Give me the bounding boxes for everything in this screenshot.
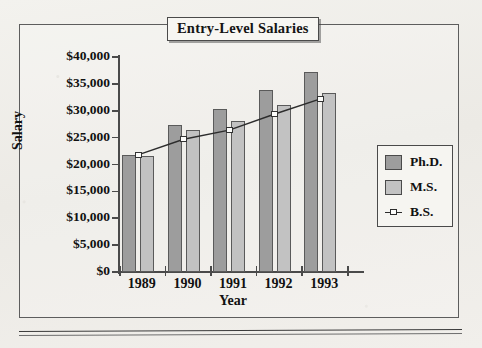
phd-swatch-icon: [385, 155, 402, 170]
bs-data-point: [317, 96, 324, 102]
x-axis-tick-label: 1989: [116, 276, 168, 292]
bs-trend-line: [119, 57, 347, 272]
y-axis-labels: $0$5,000$10,000$15,000$20,000$25,000$30,…: [0, 0, 110, 348]
y-axis-tick-label: $15,000: [66, 182, 110, 198]
legend-item-ms: M.S.: [385, 177, 437, 197]
y-axis-tick-label: $0: [97, 263, 111, 279]
y-axis-tick-label: $25,000: [66, 129, 110, 145]
x-axis-tick: [347, 266, 349, 276]
bs-data-point: [226, 127, 233, 133]
y-axis-tick-label: $30,000: [66, 102, 110, 118]
ms-swatch-icon: [385, 180, 402, 195]
x-axis-tick-label: 1990: [161, 276, 213, 292]
chart-legend: Ph.D. M.S. B.S.: [377, 145, 453, 227]
legend-label-phd: Ph.D.: [410, 154, 442, 170]
chart-title: Entry-Level Salaries: [167, 17, 319, 41]
y-axis-tick-label: $35,000: [66, 75, 110, 91]
y-axis-tick-label: $20,000: [66, 156, 110, 172]
legend-item-phd: Ph.D.: [385, 152, 442, 172]
y-axis-tick-label: $5,000: [73, 236, 110, 252]
legend-label-ms: M.S.: [410, 179, 437, 195]
x-axis-tick-label: 1992: [253, 276, 305, 292]
x-axis-tick-label: 1991: [207, 276, 259, 292]
x-axis-title: Year: [168, 293, 298, 309]
bs-marker-icon: [385, 205, 402, 220]
y-axis-tick-label: $10,000: [66, 209, 110, 225]
plot-area: [119, 57, 347, 272]
bs-data-point: [180, 136, 187, 142]
legend-item-bs: B.S.: [385, 202, 433, 222]
legend-label-bs: B.S.: [410, 204, 433, 220]
y-axis-tick-label: $40,000: [66, 48, 110, 64]
y-axis-title: Salary: [10, 111, 26, 150]
x-axis-tick-label: 1993: [298, 276, 350, 292]
bs-data-point: [135, 152, 142, 158]
bs-data-point: [271, 111, 278, 117]
